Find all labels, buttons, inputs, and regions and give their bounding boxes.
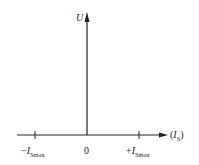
tick-label-zero: 0: [84, 146, 89, 156]
tick-sub: Smax: [30, 151, 45, 158]
y-axis-label-text: U: [76, 12, 83, 23]
x-label-close-paren: ): [180, 129, 183, 140]
tick-label-pos-ismax: +ISmax: [126, 146, 150, 159]
tick-zero-text: 0: [84, 145, 89, 156]
y-axis-label: U: [76, 13, 83, 23]
y-axis-arrow-icon: [85, 12, 90, 22]
tick-sub: Smax: [135, 151, 150, 158]
x-axis-label: (IS): [170, 130, 184, 143]
tick-label-neg-ismax: −ISmax: [21, 146, 45, 159]
x-axis-arrow-icon: [159, 133, 168, 138]
